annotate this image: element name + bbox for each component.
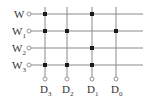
bit-label-D0: D0	[111, 83, 123, 98]
word-terminal-icon	[27, 46, 31, 50]
word-terminal-icon	[27, 12, 31, 16]
bit-label-D1: D1	[87, 83, 99, 98]
bit-terminal-icon	[90, 77, 94, 81]
word-label-W2: W2	[12, 42, 26, 57]
word-terminal-icon	[27, 29, 31, 33]
bit-terminal-icon	[114, 77, 118, 81]
connection-dot-icon	[43, 29, 47, 33]
connection-dot-icon	[90, 12, 94, 16]
bit-terminal-icon	[65, 77, 69, 81]
word-label-W1: W1	[12, 25, 26, 40]
bit-terminal-icon	[43, 77, 47, 81]
word-terminal-icon	[27, 63, 31, 67]
word-label-W3: W3	[12, 59, 26, 74]
word-label-W: W	[14, 8, 25, 20]
connection-dot-icon	[90, 63, 94, 67]
rom-matrix-diagram: D3D2D1D0WW1W2W3	[0, 0, 150, 100]
bit-label-D2: D2	[62, 83, 74, 98]
connection-dot-icon	[90, 46, 94, 50]
connection-dot-icon	[65, 29, 69, 33]
connection-dot-icon	[43, 63, 47, 67]
connection-dot-icon	[114, 29, 118, 33]
rom-matrix-svg: D3D2D1D0WW1W2W3	[0, 0, 150, 100]
bit-label-D3: D3	[40, 83, 52, 98]
connection-dot-icon	[43, 12, 47, 16]
connection-dot-icon	[65, 63, 69, 67]
